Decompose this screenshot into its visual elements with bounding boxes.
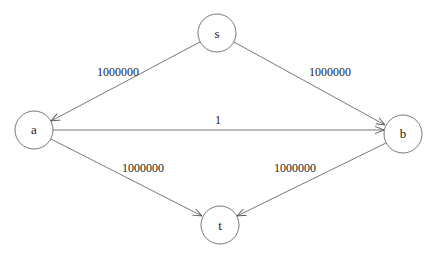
node-label-a: a bbox=[31, 122, 37, 137]
edge-label-b-t: 1000000 bbox=[274, 161, 316, 175]
edge-label-a-b: 1 bbox=[215, 113, 221, 127]
edge-b-t: 1000000 bbox=[237, 143, 386, 216]
node-label-s: s bbox=[214, 26, 219, 41]
node-t: t bbox=[201, 206, 239, 244]
edge-s-a: 1000000 bbox=[51, 42, 200, 121]
node-s: s bbox=[198, 14, 236, 52]
edge-a-b: 1 bbox=[53, 113, 384, 130]
node-label-t: t bbox=[218, 218, 222, 233]
edge-label-s-a: 1000000 bbox=[97, 65, 139, 79]
edge-s-b: 1000000 bbox=[234, 42, 385, 125]
node-a: a bbox=[15, 111, 53, 149]
node-b: b bbox=[384, 115, 422, 153]
edge-label-s-b: 1000000 bbox=[309, 65, 351, 79]
edge-a-t: 1000000 bbox=[51, 139, 202, 216]
flow-network-diagram: 1000000 1000000 1 1000000 1000000 s a b … bbox=[0, 0, 434, 257]
node-label-b: b bbox=[400, 126, 407, 141]
edge-label-a-t: 1000000 bbox=[122, 161, 164, 175]
